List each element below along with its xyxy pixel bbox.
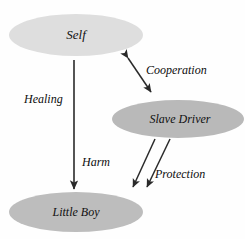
little-boy-label: Little Boy (52, 205, 101, 219)
protection-label: Protection (154, 167, 205, 181)
edge-cooperation[interactable]: Cooperation (128, 58, 207, 92)
edge-harm[interactable]: Harm (81, 139, 155, 187)
harm-label: Harm (81, 155, 110, 169)
self-label: Self (66, 27, 88, 42)
edge-healing[interactable]: Healing (23, 60, 74, 189)
slave-driver-label: Slave Driver (150, 112, 211, 126)
node-self[interactable]: Self (9, 14, 143, 56)
healing-label: Healing (23, 92, 63, 106)
harm-arrow-line (133, 139, 155, 187)
diagram-svg: Self Slave Driver Little Boy Healing Coo… (0, 0, 245, 239)
diagram-canvas: Self Slave Driver Little Boy Healing Coo… (0, 0, 245, 239)
node-little-boy[interactable]: Little Boy (9, 192, 143, 232)
edge-protection[interactable]: Protection (147, 139, 205, 187)
node-slave-driver[interactable]: Slave Driver (112, 100, 244, 138)
cooperation-label: Cooperation (146, 63, 207, 77)
